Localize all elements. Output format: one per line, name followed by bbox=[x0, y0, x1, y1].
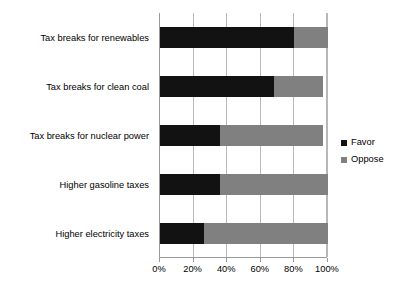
bar-segment-favor bbox=[160, 27, 294, 48]
legend-label-oppose: Oppose bbox=[351, 154, 384, 165]
axis-tick-label: 0% bbox=[142, 263, 176, 275]
category-label-4: Higher electricity taxes bbox=[55, 227, 149, 241]
bar-segment-oppose bbox=[220, 174, 328, 195]
legend-label-favor: Favor bbox=[351, 137, 375, 148]
bar-segment-favor bbox=[160, 174, 220, 195]
bar-segment-favor bbox=[160, 125, 220, 146]
category-label-2: Tax breaks for nuclear power bbox=[30, 129, 149, 143]
axis-tick-label: 100% bbox=[310, 263, 344, 275]
legend-item-favor: Favor bbox=[341, 135, 407, 150]
plot-area bbox=[159, 13, 327, 258]
bar-row bbox=[160, 125, 327, 146]
legend: Favor Oppose bbox=[341, 135, 407, 169]
bar-row bbox=[160, 174, 327, 195]
axis-tick bbox=[159, 258, 160, 262]
gridline-100% bbox=[327, 13, 328, 257]
axis-tick-label: 60% bbox=[243, 263, 277, 275]
favor-swatch-icon bbox=[341, 140, 347, 146]
bar-segment-oppose bbox=[274, 76, 323, 97]
axis-tick bbox=[293, 258, 294, 262]
bar-segment-favor bbox=[160, 223, 204, 244]
bar-segment-favor bbox=[160, 76, 274, 97]
axis-tick-label: 80% bbox=[276, 263, 310, 275]
category-axis-labels: Tax breaks for renewables Tax breaks for… bbox=[0, 13, 155, 258]
axis-tick bbox=[226, 258, 227, 262]
bar-segment-oppose bbox=[294, 27, 328, 48]
bar-segment-oppose bbox=[220, 125, 322, 146]
legend-item-oppose: Oppose bbox=[341, 152, 407, 167]
category-label-1: Tax breaks for clean coal bbox=[46, 80, 149, 94]
axis-tick-label: 20% bbox=[176, 263, 210, 275]
axis-tick bbox=[260, 258, 261, 262]
stacked-bar-chart: Tax breaks for renewables Tax breaks for… bbox=[0, 0, 411, 290]
bar-segment-oppose bbox=[204, 223, 328, 244]
bar-row bbox=[160, 76, 327, 97]
axis-tick-label: 40% bbox=[209, 263, 243, 275]
bar-row bbox=[160, 27, 327, 48]
axis-tick bbox=[327, 258, 328, 262]
bar-row bbox=[160, 223, 327, 244]
axis-tick bbox=[193, 258, 194, 262]
category-label-0: Tax breaks for renewables bbox=[40, 31, 149, 45]
category-label-3: Higher gasoline taxes bbox=[60, 178, 149, 192]
oppose-swatch-icon bbox=[341, 157, 347, 163]
